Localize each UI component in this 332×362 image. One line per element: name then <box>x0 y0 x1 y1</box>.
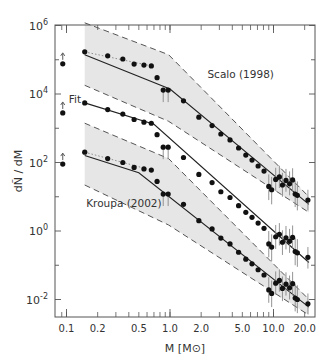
data-point <box>236 250 241 255</box>
data-point <box>141 166 146 171</box>
series-annotation: Kroupa (2002) <box>86 197 161 209</box>
data-point <box>295 297 300 302</box>
lower-limit-points <box>60 53 65 167</box>
series-annotation: Fit <box>69 93 81 105</box>
data-point <box>277 232 282 237</box>
data-point <box>181 202 186 207</box>
y-axis-label: dÑ / dM <box>12 150 25 192</box>
data-point <box>290 177 295 182</box>
data-point <box>280 286 285 291</box>
data-point <box>105 107 110 112</box>
data-point <box>161 191 166 196</box>
data-point <box>154 179 159 184</box>
data-point <box>261 226 266 231</box>
data-point <box>166 87 171 92</box>
data-point <box>295 193 300 198</box>
y-tick-label: 106 <box>29 18 48 33</box>
data-point <box>290 235 295 240</box>
data-point <box>209 180 214 185</box>
data-point <box>290 281 295 286</box>
data-point <box>132 61 137 66</box>
data-point <box>105 156 110 161</box>
data-point <box>218 189 223 194</box>
data-point <box>249 157 254 162</box>
data-point <box>82 49 87 54</box>
x-tick-label: 0.1 <box>59 323 75 334</box>
series-annotation: Scalo (1998) <box>207 68 273 80</box>
data-point <box>243 152 248 157</box>
data-point <box>269 187 274 192</box>
data-point <box>196 218 201 223</box>
data-point <box>149 121 154 126</box>
data-point <box>236 145 241 150</box>
data-point <box>277 174 282 179</box>
data-point <box>161 145 166 150</box>
data-point <box>209 123 214 128</box>
data-point <box>82 150 87 155</box>
data-point <box>120 56 125 61</box>
data-point <box>277 278 282 283</box>
data-point <box>305 255 310 260</box>
y-tick-label: 104 <box>29 86 48 101</box>
data-point <box>181 155 186 160</box>
data-point <box>280 182 285 187</box>
lower-limit-point <box>60 110 65 115</box>
data-point <box>227 137 232 142</box>
data-point <box>261 272 266 277</box>
data-point <box>261 169 266 174</box>
data-point <box>120 160 125 165</box>
data-point <box>196 115 201 120</box>
data-point <box>218 131 223 136</box>
x-tick-label: 0.5 <box>131 323 147 334</box>
data-point <box>154 75 159 80</box>
x-tick-label: 5.0 <box>234 323 250 334</box>
data-point <box>149 63 154 68</box>
data-point <box>154 132 159 137</box>
x-tick-label: 1.0 <box>162 323 178 334</box>
data-point <box>269 244 274 249</box>
data-point <box>249 261 254 266</box>
data-point <box>149 167 154 172</box>
data-point <box>269 291 274 296</box>
data-point <box>132 165 137 170</box>
data-point <box>209 226 214 231</box>
y-tick-label: 10-2 <box>26 292 48 307</box>
data-point <box>280 240 285 245</box>
data-point <box>166 145 171 150</box>
data-point <box>243 210 248 215</box>
data-point <box>256 163 261 168</box>
y-tick-label: 102 <box>29 155 48 170</box>
data-point <box>196 172 201 177</box>
data-point <box>181 98 186 103</box>
data-point <box>305 301 310 306</box>
data-point <box>243 257 248 262</box>
x-tick-label: 2.0 <box>193 323 209 334</box>
data-point <box>256 221 261 226</box>
data-point <box>218 236 223 241</box>
data-point <box>132 117 137 122</box>
data-point <box>249 215 254 220</box>
data-point <box>161 87 166 92</box>
x-tick-label: 20.0 <box>294 323 316 334</box>
data-point <box>82 100 87 105</box>
data-point <box>120 111 125 116</box>
data-point <box>105 53 110 58</box>
data-point <box>236 203 241 208</box>
x-axis-label: M [M⊙] <box>165 342 205 355</box>
data-point <box>227 195 232 200</box>
imf-chart: 0.10.20.51.02.05.010.020.0 1061041021001… <box>0 0 332 362</box>
data-point <box>227 241 232 246</box>
data-point <box>295 250 300 255</box>
lower-limit-point <box>60 61 65 66</box>
data-point <box>141 62 146 67</box>
data-point <box>305 197 310 202</box>
data-point <box>256 267 261 272</box>
x-tick-label: 10.0 <box>262 323 284 334</box>
data-point <box>166 191 171 196</box>
y-tick-label: 100 <box>29 223 48 238</box>
x-tick-label: 0.2 <box>90 323 106 334</box>
data-point <box>141 120 146 125</box>
